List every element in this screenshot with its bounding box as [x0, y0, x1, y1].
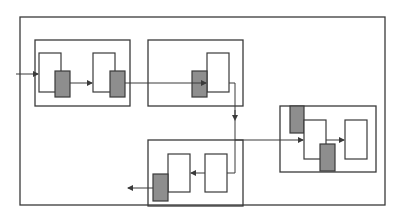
block-3b	[345, 120, 367, 159]
block-2-shaded	[192, 71, 207, 97]
group-1	[35, 40, 130, 106]
outer-frame	[20, 17, 385, 205]
link-to-group-4	[227, 120, 235, 173]
block-4b	[205, 154, 227, 192]
block-1b-shaded	[110, 71, 125, 97]
block-4-shaded	[153, 174, 168, 201]
link-2-down	[229, 83, 235, 118]
block-3-shaded-bottom	[320, 144, 335, 171]
block-4a	[168, 154, 190, 192]
group-2	[148, 40, 243, 106]
block-3-shaded-top	[290, 106, 304, 133]
block-1a-shaded	[55, 71, 70, 97]
block-2-white	[207, 53, 229, 92]
group-3	[280, 106, 376, 172]
block-diagram	[0, 0, 397, 222]
